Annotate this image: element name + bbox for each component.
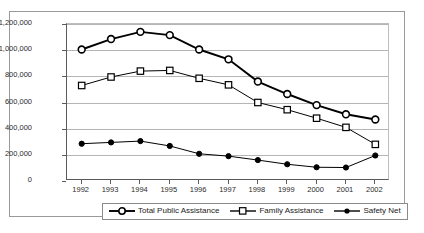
x-axis-tick — [257, 180, 258, 184]
data-point — [108, 140, 113, 145]
x-axis-tick — [374, 180, 375, 184]
y-axis-label: 600,000 — [0, 98, 32, 106]
legend-marker-filled-circle-icon — [334, 206, 360, 216]
x-axis-tick — [169, 180, 170, 184]
x-axis-tick — [198, 180, 199, 184]
x-axis-label: 2002 — [354, 186, 394, 194]
data-point — [314, 165, 319, 170]
data-point — [225, 82, 231, 88]
data-point — [196, 75, 202, 81]
data-point — [343, 124, 349, 130]
chart-frame: 1,200,0001,000,000800,000600,000400,0002… — [9, 11, 405, 217]
data-point — [137, 28, 144, 35]
y-axis-tick — [62, 129, 66, 130]
data-point — [343, 165, 348, 170]
series-line — [82, 32, 376, 120]
y-axis-label: 0 — [0, 176, 32, 184]
x-axis-tick — [316, 180, 317, 184]
y-axis-label: 200,000 — [0, 150, 32, 158]
data-point — [284, 106, 290, 112]
data-point — [196, 46, 203, 53]
data-point — [167, 67, 173, 73]
data-point — [313, 115, 319, 121]
data-point — [138, 138, 143, 143]
x-axis-labels: 1992199319941995199619971998199920002001… — [66, 180, 389, 196]
data-point — [372, 141, 378, 147]
data-point — [166, 32, 173, 39]
data-point — [225, 56, 232, 63]
series-total-public-assistance — [78, 28, 378, 122]
x-axis-tick — [228, 180, 229, 184]
data-point — [255, 157, 260, 162]
data-point — [373, 153, 378, 158]
y-axis-label: 800,000 — [0, 71, 32, 79]
data-point — [313, 102, 320, 109]
x-axis-tick — [345, 180, 346, 184]
y-axis-label: 1,200,000 — [0, 19, 32, 27]
data-point — [372, 116, 379, 123]
data-point — [78, 82, 84, 88]
data-point — [285, 162, 290, 167]
data-point — [167, 143, 172, 148]
data-point — [108, 74, 114, 80]
data-point — [197, 151, 202, 156]
y-axis-tick — [62, 103, 66, 104]
data-point — [343, 111, 350, 118]
legend-marker-open-circle-icon — [109, 206, 135, 216]
series-lines — [67, 24, 390, 181]
plot-area — [66, 23, 389, 180]
x-axis-tick — [286, 180, 287, 184]
y-axis-tick — [62, 155, 66, 156]
data-point — [79, 141, 84, 146]
legend-item: Safety Net — [334, 206, 400, 216]
data-point — [108, 36, 115, 43]
series-safety-net — [79, 138, 378, 170]
y-axis-tick — [62, 76, 66, 77]
data-point — [254, 78, 261, 85]
x-axis-tick — [81, 180, 82, 184]
data-point — [255, 99, 261, 105]
legend-label: Family Assistance — [259, 207, 323, 215]
series-family-assistance — [78, 67, 378, 147]
legend-label: Safety Net — [363, 207, 400, 215]
data-point — [226, 154, 231, 159]
legend-item: Family Assistance — [230, 206, 323, 216]
y-axis-label: 400,000 — [0, 124, 32, 132]
legend-label: Total Public Assistance — [138, 207, 219, 215]
y-axis-tick — [62, 24, 66, 25]
legend-marker-open-square-icon — [230, 206, 256, 216]
data-point — [78, 46, 85, 53]
x-axis-tick — [139, 180, 140, 184]
legend-item: Total Public Assistance — [109, 206, 219, 216]
x-axis-tick — [110, 180, 111, 184]
data-point — [284, 91, 291, 98]
y-axis-tick — [62, 50, 66, 51]
data-point — [137, 68, 143, 74]
chart-legend: Total Public AssistanceFamily Assistance… — [102, 203, 408, 220]
y-axis-label: 1,000,000 — [0, 45, 32, 53]
